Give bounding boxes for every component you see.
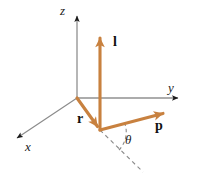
l-vector-label: l	[113, 35, 117, 49]
y-axis-label: y	[168, 81, 174, 94]
theta-angle-label: θ	[125, 133, 131, 146]
p-vector-shaft	[100, 113, 163, 130]
r-vector-label: r	[77, 112, 83, 126]
p-vector-label: p	[155, 119, 163, 133]
axes-group	[17, 16, 178, 138]
x-axis-label: x	[25, 140, 31, 153]
angular-momentum-diagram: z y x l r p θ	[0, 0, 199, 183]
x-axis-line	[17, 98, 77, 138]
dashed-reference-line	[100, 130, 143, 172]
angle-group	[100, 124, 143, 172]
z-axis-label: z	[60, 4, 65, 17]
vectors-group	[77, 38, 163, 130]
